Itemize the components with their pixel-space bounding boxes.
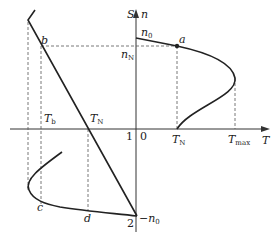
point-b-label: b [41, 35, 48, 46]
label-TN-left: TN [90, 113, 103, 126]
label-Tb: Tb [44, 113, 56, 126]
label-neg-n0-sub: 0 [155, 218, 159, 226]
axis-label-S: S [127, 9, 135, 20]
label-Tmax-sub: max [235, 139, 250, 147]
label-TN-right: TN [172, 134, 185, 147]
label-neg-n0: −n0 [139, 213, 160, 226]
label-nN: nN [121, 49, 134, 62]
point-a-label: a [179, 34, 186, 45]
label-nN-sub: N [128, 54, 134, 62]
axis-label-T: T [262, 135, 269, 146]
point-c-label: c [37, 202, 43, 213]
arrow-T-icon [261, 126, 270, 132]
reverse-characteristic-curve [28, 152, 137, 216]
label-neg-n0-base: −n [139, 212, 155, 225]
point-d-label: d [84, 213, 91, 224]
point-2-label: 2 [127, 218, 134, 229]
label-Tb-sub: b [51, 118, 55, 126]
motor-characteristic-curve [136, 38, 235, 129]
label-Tmax: Tmax [228, 134, 250, 147]
point-1-label: 1 [126, 131, 133, 142]
origin-label: 0 [140, 131, 147, 142]
label-n0: n0 [141, 27, 153, 40]
label-TN-right-sub: N [179, 139, 185, 147]
label-n0-sub: 0 [148, 32, 152, 40]
axis-label-n: n [141, 9, 148, 20]
label-TN-left-sub: N [97, 118, 103, 126]
